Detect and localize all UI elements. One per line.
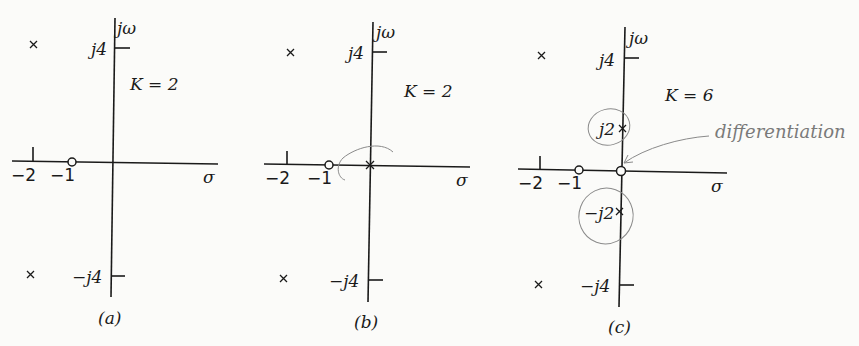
gain-label: K = 2 <box>403 81 453 101</box>
panel-caption: (b) <box>354 312 378 332</box>
tick-label-neg1: −1 <box>307 168 332 188</box>
panel-caption: (a) <box>98 308 121 328</box>
tick-label-j4: j4 <box>344 43 364 63</box>
tick-label-j2: j2 <box>595 119 615 139</box>
pole-marker <box>30 41 37 48</box>
tick-label-neg-j2: −j2 <box>584 203 614 223</box>
imag-axis-label: jω <box>625 28 648 48</box>
real-axis-label: σ <box>711 176 723 196</box>
tick-label-neg2: −2 <box>11 165 36 185</box>
pole-marker <box>535 281 542 288</box>
gain-label: K = 2 <box>129 74 179 94</box>
panel-a-axes <box>12 18 218 297</box>
imag-axis-label: jω <box>372 22 395 42</box>
pole-marker <box>616 208 623 215</box>
gain-label: K = 6 <box>664 85 714 105</box>
annotation-differentiation: differentiation <box>715 121 846 142</box>
tick-label-neg1: −1 <box>50 165 75 185</box>
real-axis-label: σ <box>456 170 468 190</box>
tick-label-neg-j4: −j4 <box>580 276 610 296</box>
panel-caption: (c) <box>608 317 631 337</box>
tick-label-neg-j4: −j4 <box>72 267 102 287</box>
imag-axis-label: jω <box>113 18 136 38</box>
real-axis-label: σ <box>203 167 215 187</box>
pole-zero-diagrams: jω j4 K = 2 −2 −1 σ −j4 (a) jω j4 K = 2 … <box>0 0 859 346</box>
tick-label-neg-j4: −j4 <box>329 271 359 291</box>
tick-label-neg2: −2 <box>518 173 543 193</box>
tick-label-neg2: −2 <box>265 168 290 188</box>
tick-label-j4: j4 <box>87 39 107 59</box>
tick-label-j4: j4 <box>595 50 615 70</box>
zero-marker <box>617 167 626 176</box>
pole-marker <box>280 275 287 282</box>
pole-marker <box>538 52 545 59</box>
tick-label-neg1: −1 <box>557 173 582 193</box>
pole-marker <box>287 49 294 56</box>
pole-marker <box>27 271 34 278</box>
